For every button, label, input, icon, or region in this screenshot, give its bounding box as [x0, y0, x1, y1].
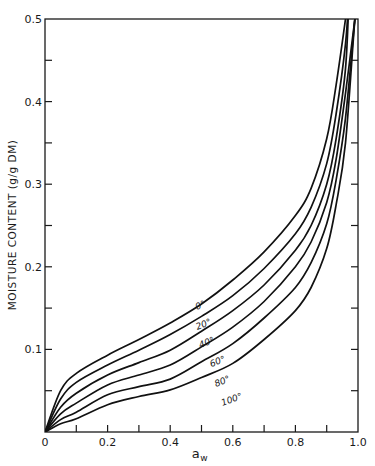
x-tick-label: 0.4 [161, 436, 179, 449]
y-tick-label: 0.1 [25, 343, 43, 356]
x-axis-ticks: 00.20.40.60.81.0 [42, 425, 367, 449]
x-tick-label: 0.2 [99, 436, 117, 449]
curve-label-80deg: 80° [213, 374, 232, 389]
x-axis-title: aw [192, 446, 208, 463]
x-tick-label: 1.0 [349, 436, 367, 449]
x-tick-label: 0 [42, 436, 49, 449]
isotherm-curve-40deg [45, 0, 349, 432]
isotherm-curve-80deg [45, 0, 359, 432]
y-tick-label: 0.4 [25, 96, 43, 109]
curve-temperature-labels: 0°20°40°60°80°100° [194, 299, 244, 408]
x-tick-label: 0.6 [224, 436, 242, 449]
y-axis-ticks: 0.10.20.30.40.5 [25, 13, 359, 391]
isotherm-curves [45, 0, 359, 432]
isotherm-curve-100deg [45, 0, 359, 432]
isotherm-curve-0deg [45, 0, 349, 432]
y-tick-label: 0.5 [25, 13, 43, 26]
curve-label-40deg: 40° [197, 335, 216, 350]
y-tick-label: 0.3 [25, 178, 43, 191]
isotherm-curve-60deg [45, 0, 359, 432]
y-axis-title: MOISTURE CONTENT (g/g DM) [6, 140, 18, 311]
y-tick-label: 0.2 [25, 261, 43, 274]
x-tick-label: 0.8 [287, 436, 305, 449]
isotherm-curve-20deg [45, 0, 349, 432]
sorption-isotherm-chart: 00.20.40.60.81.0 0.10.20.30.40.5 0°20°40… [0, 0, 375, 466]
curve-label-100deg: 100° [220, 391, 244, 408]
